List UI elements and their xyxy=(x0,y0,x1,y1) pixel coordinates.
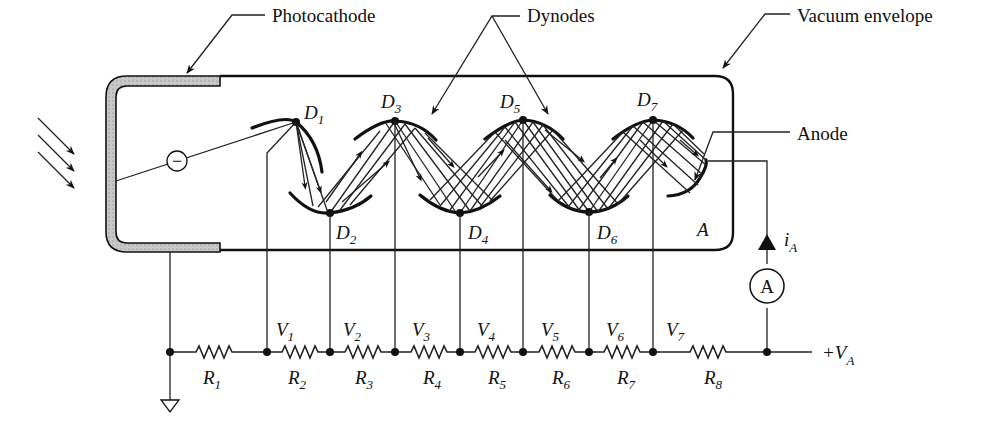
anode-current-label: iA xyxy=(784,229,797,255)
callout-leaders xyxy=(187,14,790,180)
incident-light-icon xyxy=(38,118,74,188)
ground-icon xyxy=(161,400,179,412)
voltage-label-v7: V7 xyxy=(666,319,685,344)
dynode-label-d4: D4 xyxy=(467,222,489,247)
current-direction-arrow-icon xyxy=(758,234,776,250)
dynode-label-d6: D6 xyxy=(596,222,618,247)
dynode-label-d2: D2 xyxy=(335,222,357,247)
anode-symbol-label: A xyxy=(695,219,709,240)
voltage-label-v5: V5 xyxy=(541,319,560,344)
dynode-label-d5: D5 xyxy=(499,91,521,116)
dynode-label-d3: D3 xyxy=(380,91,402,116)
resistor-label-r6: R6 xyxy=(551,367,571,392)
voltage-label-v6: V6 xyxy=(606,319,625,344)
voltage-label-v3: V3 xyxy=(412,319,431,344)
vacuum-envelope-label: Vacuum envelope xyxy=(797,5,933,26)
voltage-label-v1: V1 xyxy=(276,319,294,344)
electron-cascade xyxy=(296,120,706,213)
photocathode-shape xyxy=(106,76,220,252)
resistor-label-r7: R7 xyxy=(616,367,636,392)
resistor-label-r8: R8 xyxy=(703,367,723,392)
voltage-label-v2: V2 xyxy=(343,319,362,344)
anode-label: Anode xyxy=(797,123,848,144)
resistor-label-r4: R4 xyxy=(422,367,442,392)
resistor-label-r5: R5 xyxy=(487,367,507,392)
photomultiplier-diagram: − xyxy=(0,0,986,438)
dynode-leads xyxy=(170,120,767,400)
supply-voltage-label: +VA xyxy=(822,342,854,368)
dynode-label-d1: D1 xyxy=(303,102,324,127)
ammeter-label: A xyxy=(760,276,774,297)
dynode-label-d7: D7 xyxy=(636,89,658,114)
photocathode-label: Photocathode xyxy=(272,5,375,26)
resistor-label-r1: R1 xyxy=(202,367,221,392)
resistor-label-r2: R2 xyxy=(287,367,307,392)
electron-symbol: − xyxy=(172,151,182,171)
dynodes-label: Dynodes xyxy=(527,5,595,26)
voltage-label-v4: V4 xyxy=(477,319,496,344)
resistor-label-r3: R3 xyxy=(354,367,374,392)
